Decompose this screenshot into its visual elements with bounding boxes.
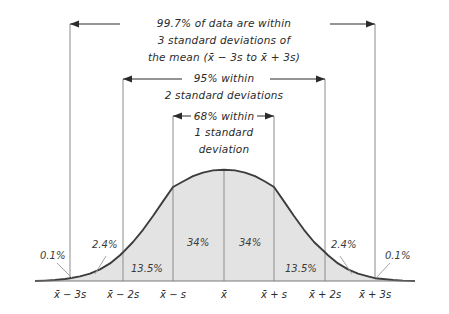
annotation-997-line1: 99.7% of data are within	[157, 17, 291, 29]
annotation-68-line3: deviation	[199, 143, 250, 155]
axis-tick-label-minus3s: x̄ − 3s	[53, 289, 86, 300]
percent-label-tail-left: 2.4%	[92, 239, 117, 250]
axis-tick-label-mean: x̄	[220, 289, 227, 300]
curve-fill-area	[35, 170, 415, 281]
span-997-arrow-right	[366, 21, 375, 28]
span-95-arrow-left	[123, 76, 132, 83]
percent-label-tail-right: 2.4%	[331, 239, 356, 250]
axis-tick-label-plus1s: x̄ + s	[260, 289, 287, 300]
annotation-68-line1: 68% within	[194, 110, 255, 122]
annotation-68-line2: 1 standard	[195, 126, 254, 138]
percent-label-center-right: 34%	[239, 237, 261, 248]
axis-tick-label-plus3s: x̄ + 3s	[358, 289, 391, 300]
leader-line-right-outer	[376, 263, 390, 278]
axis-tick-label-minus1s: x̄ − s	[159, 289, 186, 300]
annotation-997-line2: 3 standard deviations of	[158, 34, 293, 46]
normal-distribution-figure: 99.7% of data are within 3 standard devi…	[0, 0, 449, 314]
percent-label-outer-right: 0.1%	[385, 250, 410, 261]
axis-tick-label-minus2s: x̄ − 2s	[106, 289, 139, 300]
percent-label-mid-left: 13.5%	[131, 263, 163, 274]
chart-svg: 99.7% of data are within 3 standard devi…	[0, 0, 449, 314]
span-68-arrow-left	[173, 113, 182, 120]
span-95-arrow-right	[316, 76, 325, 83]
percent-label-outer-left: 0.1%	[40, 250, 65, 261]
percent-label-mid-right: 13.5%	[285, 263, 317, 274]
annotation-997-line3: the mean (x̄ − 3s to x̄ + 3s)	[148, 51, 300, 63]
percent-label-center-left: 34%	[187, 237, 209, 248]
axis-tick-label-plus2s: x̄ + 2s	[308, 289, 341, 300]
span-997-arrow-left	[70, 21, 79, 28]
annotation-95-line2: 2 standard deviations	[165, 89, 284, 101]
span-68-arrow-right	[265, 113, 274, 120]
annotation-95-line1: 95% within	[194, 72, 255, 84]
